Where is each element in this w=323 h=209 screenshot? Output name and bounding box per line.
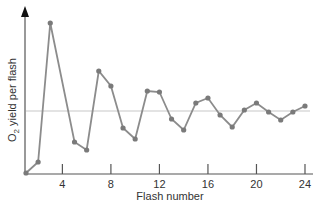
x-ticks: 4812162024 (59, 164, 311, 190)
svg-text:12: 12 (153, 178, 165, 190)
svg-text:20: 20 (250, 178, 262, 190)
svg-text:16: 16 (202, 178, 214, 190)
svg-text:4: 4 (59, 178, 65, 190)
y-axis-label: O2 yield per flash (6, 58, 21, 142)
svg-text:24: 24 (299, 178, 311, 190)
x-axis-label: Flash number (136, 190, 204, 202)
svg-text:8: 8 (108, 178, 114, 190)
o2-yield-chart: 4812162024 Flash number O2 yield per fla… (0, 0, 323, 209)
data-series (23, 20, 307, 175)
